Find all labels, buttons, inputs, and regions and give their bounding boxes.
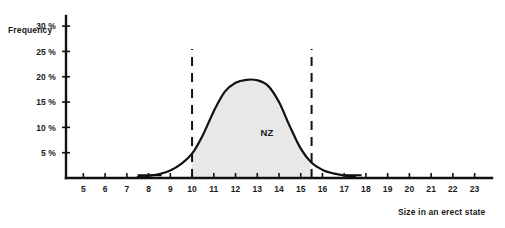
x-tick-label: 15 (296, 184, 306, 194)
x-tick-label: 6 (103, 184, 108, 194)
x-tick-label: 5 (81, 184, 86, 194)
x-tick-label: 17 (339, 184, 349, 194)
x-tick-label: 12 (231, 184, 241, 194)
x-tick-label: 7 (124, 184, 129, 194)
x-axis-title: Size in an erect state (398, 207, 486, 217)
x-tick-label: 8 (146, 184, 151, 194)
x-tick-label: 16 (318, 184, 328, 194)
x-tick-label: 19 (383, 184, 393, 194)
y-tick-label: 15 % (36, 97, 56, 107)
x-tick-label: 11 (209, 184, 218, 194)
y-axis-title: Frequency (8, 25, 52, 35)
x-tick-label: 10 (187, 184, 197, 194)
nz-series-label: NZ (260, 127, 273, 138)
y-tick-label: 5 % (41, 148, 56, 158)
x-tick-label: 21 (426, 184, 436, 194)
x-tick-label: 22 (448, 184, 458, 194)
x-tick-label: 9 (168, 184, 173, 194)
x-tick-label: 23 (470, 184, 480, 194)
y-tick-label: 25 % (36, 47, 56, 57)
x-tick-label: 18 (361, 184, 371, 194)
x-tick-label: 20 (405, 184, 415, 194)
y-tick-label: 20 % (36, 72, 56, 82)
y-tick-label: 10 % (36, 123, 56, 133)
distribution-chart: 5 %10 %15 %20 %25 %30 % 5678910111213141… (0, 0, 505, 228)
x-tick-label: 14 (274, 184, 284, 194)
x-tick-label: 13 (252, 184, 262, 194)
chart-figure: 5 %10 %15 %20 %25 %30 % 5678910111213141… (0, 0, 505, 228)
nz-shaded-area (192, 80, 312, 178)
